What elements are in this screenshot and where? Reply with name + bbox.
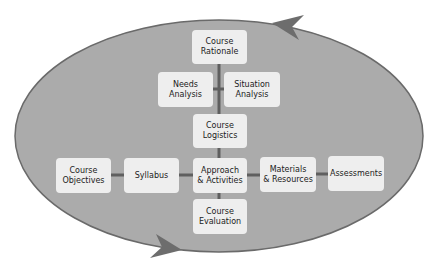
node-approach-activities: Approach & Activities [193,158,247,193]
node-materials-resources: Materials & Resources [260,157,316,192]
node-course-logistics: Course Logistics [193,114,247,148]
node-needs-analysis: Needs Analysis [158,72,213,107]
node-syllabus: Syllabus [124,158,179,193]
node-assessments: Assessments [328,156,384,191]
node-course-evaluation: Course Evaluation [193,199,247,234]
node-course-rationale: Course Rationale [192,30,247,64]
node-situation-analysis: Situation Analysis [224,72,280,107]
node-course-objectives: Course Objectives [56,158,111,193]
